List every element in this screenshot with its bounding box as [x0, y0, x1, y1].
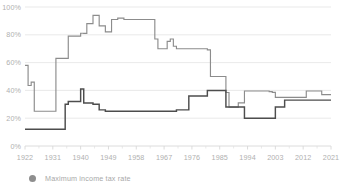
x-axis-tick-label: 1931 — [45, 153, 61, 162]
data-series-layer — [25, 15, 331, 129]
x-axis-tick-label: 1958 — [128, 153, 144, 162]
x-axis-ticks — [25, 146, 331, 150]
x-axis-tick-label: 1940 — [72, 153, 88, 162]
series-line-lower-bracket-tax-rate — [25, 89, 331, 129]
y-axis-tick-label: 0% — [10, 142, 21, 151]
y-axis-tick-label: 100% — [2, 3, 21, 12]
x-axis-tick-label: 1922 — [17, 153, 33, 162]
y-axis-tick-label: 80% — [6, 30, 21, 39]
y-axis-tick-label: 40% — [6, 86, 21, 95]
tax-rate-line-chart: 0%20%40%60%80%100% 192219311940194919581… — [0, 0, 340, 191]
legend-marker-icon — [29, 175, 36, 182]
x-axis-tick-label: 2003 — [267, 153, 283, 162]
x-axis-tick-label: 2021 — [323, 153, 339, 162]
x-axis-tick-label: 1949 — [100, 153, 116, 162]
chart-container: 0%20%40%60%80%100% 192219311940194919581… — [0, 0, 340, 191]
series-line-maximum-income-tax-rate — [25, 15, 331, 111]
x-axis-tick-label: 1967 — [156, 153, 172, 162]
y-axis-labels: 0%20%40%60%80%100% — [2, 3, 21, 151]
x-axis-tick-label: 2012 — [295, 153, 311, 162]
y-axis-tick-label: 60% — [6, 58, 21, 67]
x-axis-tick-label: 1976 — [184, 153, 200, 162]
x-axis-tick-label: 1994 — [239, 153, 255, 162]
x-axis-tick-label: 1985 — [212, 153, 228, 162]
legend-label-maximum-income-tax-rate: Maximum income tax rate — [45, 174, 131, 183]
x-axis-labels: 1922193119401949195819671976198519942003… — [17, 153, 339, 162]
y-axis-tick-label: 20% — [6, 114, 21, 123]
chart-legend: Maximum income tax rate — [29, 174, 131, 183]
